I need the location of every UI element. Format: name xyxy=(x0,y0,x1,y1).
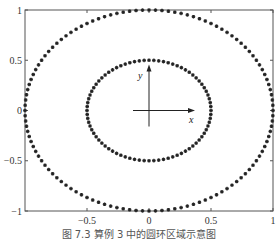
y-tick-label: 0.5 xyxy=(10,55,23,66)
y-tick-label: 0 xyxy=(17,105,22,116)
figure-caption: 图 7.3 算例 3 中的圆环区域示意图 xyxy=(0,226,278,239)
x-axis-arrowhead-icon xyxy=(188,108,195,113)
y-tick-label: −1 xyxy=(11,206,22,217)
y-axis-arrowhead-icon xyxy=(147,65,152,72)
y-tick-label: 1 xyxy=(17,5,22,16)
x-axis-letter: x xyxy=(188,114,194,125)
x-tick-label: 1 xyxy=(271,215,276,226)
x-tick-label: 0.5 xyxy=(205,215,218,226)
scatter-plot: −0.500.51−1−0.500.51xy xyxy=(0,0,278,239)
x-tick-label: −0.5 xyxy=(78,215,96,226)
x-tick-label: 0 xyxy=(147,215,152,226)
y-tick-label: −0.5 xyxy=(4,155,22,166)
y-axis-letter: y xyxy=(137,70,143,81)
